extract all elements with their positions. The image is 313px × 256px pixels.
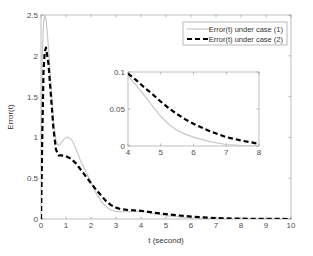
x-tick-label: 9	[264, 221, 269, 230]
x-tick-label: 8	[257, 148, 262, 157]
x-tick-label: 10	[287, 221, 296, 230]
x-tick-label: 7	[224, 148, 229, 157]
y-tick-label: 1	[34, 133, 39, 142]
chart-canvas: 01234567891000.511.522.5 4567800.050.1 E…	[0, 0, 313, 256]
legend-label-case-1: Error(t) under case (1)	[209, 25, 284, 34]
x-tick-label: 7	[214, 221, 219, 230]
y-tick-label: 0.05	[109, 105, 125, 114]
y-tick-label: 0	[34, 215, 39, 224]
x-tick-label: 5	[164, 221, 169, 230]
inset-axes: 4567800.050.1	[109, 68, 261, 157]
y-axis-label: Error(t)	[6, 104, 15, 130]
y-tick-label: 1.5	[27, 93, 39, 102]
x-tick-label: 6	[191, 148, 196, 157]
x-tick-label: 5	[159, 148, 164, 157]
legend-label-case-2: Error(t) under case (2)	[209, 35, 284, 44]
y-tick-label: 0	[121, 142, 126, 151]
inset-frame	[128, 72, 259, 146]
legend: Error(t) under case (1)Error(t) under ca…	[183, 22, 287, 45]
x-tick-label: 0	[39, 221, 44, 230]
x-tick-label: 2	[89, 221, 94, 230]
y-tick-label: 2.5	[27, 11, 39, 20]
y-tick-label: 0.5	[27, 174, 39, 183]
x-tick-label: 8	[239, 221, 244, 230]
x-tick-label: 4	[139, 221, 144, 230]
x-tick-label: 3	[114, 221, 119, 230]
x-tick-label: 6	[189, 221, 194, 230]
y-tick-label: 2	[34, 52, 39, 61]
x-tick-label: 1	[64, 221, 69, 230]
x-axis-label: t (second)	[148, 236, 184, 245]
x-tick-label: 4	[126, 148, 131, 157]
y-tick-label: 0.1	[114, 68, 126, 77]
